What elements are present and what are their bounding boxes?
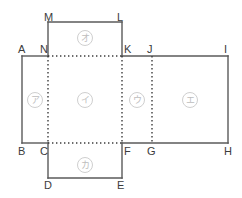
face-label-i: イ (77, 92, 93, 108)
vertex-label-d: D (44, 180, 52, 191)
vertex-label-h: H (224, 146, 232, 157)
face-label-a: ア (27, 92, 43, 108)
vertex-label-i: I (224, 44, 227, 55)
face-label-o: オ (77, 30, 93, 46)
vertex-label-e: E (117, 180, 124, 191)
face-label-ka: カ (77, 157, 93, 173)
vertex-label-b: B (18, 146, 25, 157)
box-net-figure: A N M L K J I B C F G H D E ア イ ウ エ オ カ (0, 0, 242, 198)
vertex-label-g: G (147, 146, 156, 157)
vertex-label-f: F (124, 146, 131, 157)
face-label-e: エ (182, 92, 198, 108)
face-label-u: ウ (129, 92, 145, 108)
vertex-label-j: J (147, 44, 153, 55)
vertex-label-l: L (117, 12, 123, 23)
vertex-label-c: C (40, 146, 48, 157)
vertex-label-k: K (124, 44, 131, 55)
vertex-label-a: A (18, 44, 25, 55)
vertex-label-m: M (44, 12, 53, 23)
vertex-label-n: N (40, 44, 48, 55)
